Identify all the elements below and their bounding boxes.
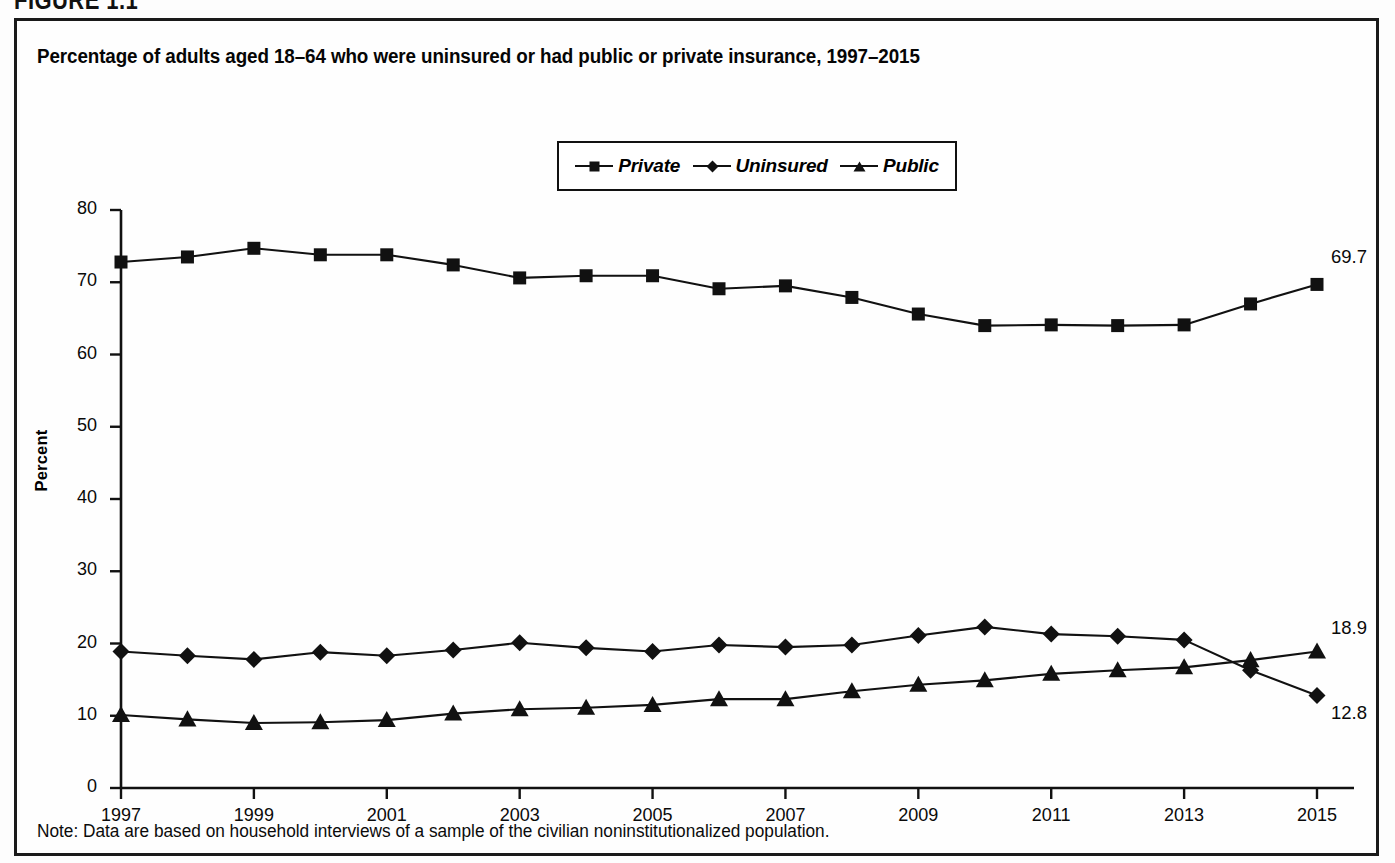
plot-area: Percent 01020304050607080199719992001200… bbox=[17, 21, 1382, 859]
x-tick-label: 2015 bbox=[1282, 805, 1352, 826]
endpoint-label-public: 18.9 bbox=[1331, 617, 1367, 639]
y-axis-title: Percent bbox=[32, 430, 51, 492]
x-tick-label: 2013 bbox=[1149, 805, 1219, 826]
y-tick-label: 20 bbox=[55, 632, 97, 653]
figure-caption: FIGURE 1.1 bbox=[14, 0, 138, 15]
y-tick-label: 40 bbox=[55, 487, 97, 508]
figure-frame: Percentage of adults aged 18–64 who were… bbox=[14, 18, 1379, 856]
y-tick-label: 60 bbox=[55, 343, 97, 364]
figure-page: FIGURE 1.1 Percentage of adults aged 18–… bbox=[0, 0, 1395, 863]
y-tick-label: 0 bbox=[55, 776, 97, 797]
y-tick-label: 10 bbox=[55, 704, 97, 725]
chart-note: Note: Data are based on household interv… bbox=[37, 821, 829, 842]
y-tick-label: 80 bbox=[55, 198, 97, 219]
x-tick-label: 2011 bbox=[1016, 805, 1086, 826]
y-tick-label: 50 bbox=[55, 415, 97, 436]
endpoint-label-private: 69.7 bbox=[1331, 246, 1367, 268]
y-tick-label: 70 bbox=[55, 270, 97, 291]
endpoint-label-uninsured: 12.8 bbox=[1331, 702, 1367, 724]
line-chart-canvas bbox=[17, 21, 1382, 859]
x-tick-label: 2009 bbox=[883, 805, 953, 826]
y-tick-label: 30 bbox=[55, 559, 97, 580]
